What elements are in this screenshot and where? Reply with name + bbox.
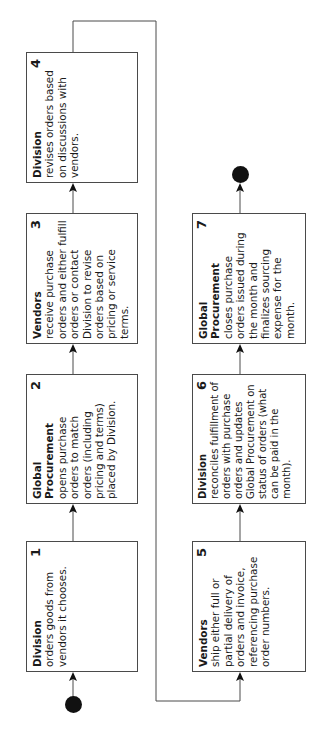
step-description: receive purchase orders and either fulfi… — [43, 220, 130, 339]
step-description: orders goods from vendors it chooses. — [43, 548, 68, 667]
end-dot — [232, 166, 249, 183]
step-actor: Global Procurement — [197, 279, 222, 339]
step-actor: Vendors — [31, 220, 43, 339]
step-actor: Global Procurement — [31, 439, 56, 499]
step-box-3: 3 Vendors receive purchase orders and ei… — [26, 213, 138, 344]
step-box-4: 4 Division revises orders based on discu… — [26, 52, 138, 183]
step-actor: Vendors — [197, 548, 209, 667]
step-actor: Division — [197, 381, 209, 499]
step-description: opens purchase orders to match orders (i… — [56, 381, 118, 499]
step-number: 4 — [29, 59, 43, 68]
step-number: 3 — [29, 220, 43, 229]
step-actor: Division — [31, 59, 43, 178]
start-dot — [65, 696, 82, 713]
step-box-6: 6 Division reconciles fulfillment of ord… — [192, 374, 306, 504]
step-number: 2 — [29, 381, 43, 390]
step-box-7: 7 Global Procurement closes purchase ord… — [192, 213, 306, 344]
step-number: 6 — [195, 381, 209, 390]
step-actor: Division — [31, 548, 43, 667]
process-flow-diagram: 1 Division orders goods from vendors it … — [0, 0, 320, 740]
step-number: 7 — [195, 220, 209, 229]
step-number: 1 — [29, 548, 43, 557]
step-description: reconciles fulfillment of orders with pu… — [209, 381, 293, 499]
step-number: 5 — [195, 548, 209, 557]
step-box-2: 2 Global Procurement opens purchase orde… — [26, 374, 138, 504]
step-description: ship either full or partial delivery of … — [209, 548, 271, 667]
step-description: revises orders based on discussions with… — [43, 59, 80, 178]
step-box-5: 5 Vendors ship either full or partial de… — [192, 541, 306, 672]
step-description: closes purchase orders issued during the… — [222, 220, 296, 339]
step-box-1: 1 Division orders goods from vendors it … — [26, 541, 138, 672]
